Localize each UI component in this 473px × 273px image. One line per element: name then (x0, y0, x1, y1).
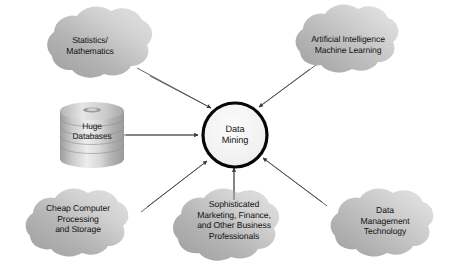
node-center-data-mining[interactable] (203, 103, 267, 167)
cloud-shape (173, 188, 279, 260)
cloud-shape (296, 5, 399, 73)
diagram-svg (0, 0, 473, 273)
edge-statistics-to-center-overlay (150, 76, 211, 108)
node-artificial-intelligence[interactable] (296, 5, 399, 73)
node-huge-databases[interactable] (60, 102, 124, 168)
edge-data-management-to-center-overlay (263, 158, 322, 202)
cylinder-spindle-hole (87, 108, 97, 111)
cloud-shape (26, 189, 129, 257)
edge-ai-to-center-overlay (259, 69, 310, 107)
diagram-canvas: Statistics/ Mathematics Artificial Intel… (0, 0, 473, 273)
cloud-shape (331, 189, 434, 257)
node-cheap-computer-processing[interactable] (26, 189, 129, 257)
node-data-management-technology[interactable] (331, 189, 434, 257)
node-statistics-mathematics[interactable] (47, 6, 152, 77)
center-circle (203, 103, 267, 167)
cloud-shape (47, 6, 152, 77)
node-sophisticated-professionals[interactable] (173, 188, 279, 260)
